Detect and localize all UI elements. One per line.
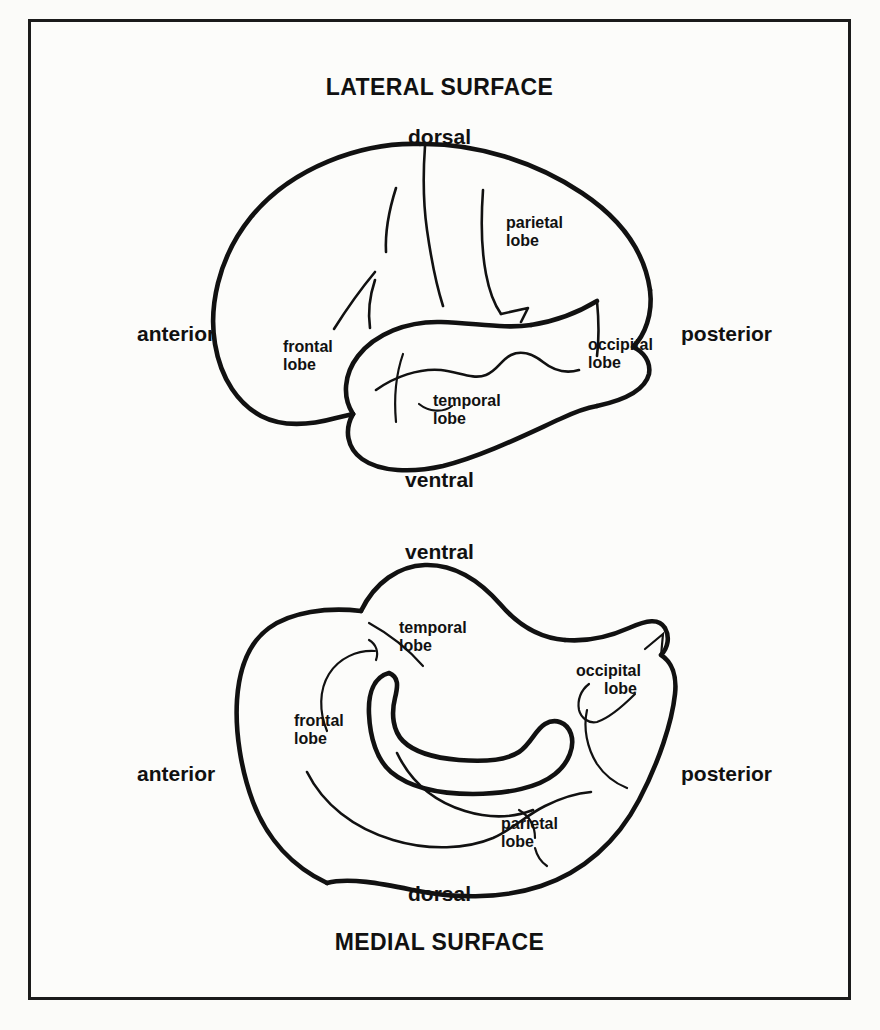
medial-frontal-lobe-line2: lobe: [294, 730, 344, 748]
medial-surface-title: MEDIAL SURFACE: [31, 929, 848, 956]
medial-parietal-lobe-line1: parietal: [501, 815, 558, 833]
medial-parietal-lobe-line2: lobe: [501, 833, 558, 851]
medial-dorsal-label: dorsal: [31, 882, 848, 906]
medial-parietal-lobe-label: parietal lobe: [501, 815, 558, 851]
medial-temporal-lobe-line2: lobe: [399, 637, 467, 655]
page-canvas: LATERAL SURFACE dorsal anterior posterio…: [0, 0, 880, 1030]
medial-brain-illustration: [31, 22, 854, 1003]
medial-occipital-lobe-line1: occipital: [576, 662, 641, 680]
medial-occipital-notch: [645, 634, 663, 656]
medial-temporal-lobe-line1: temporal: [399, 619, 467, 637]
medial-occipital-lobe-label: occipital lobe: [576, 662, 641, 698]
figure-frame: LATERAL SURFACE dorsal anterior posterio…: [28, 19, 851, 1000]
medial-frontal-lobe-label: frontal lobe: [294, 712, 344, 748]
medial-frontal-lobe-line1: frontal: [294, 712, 344, 730]
medial-corpus-callosum: [369, 673, 572, 794]
medial-temporal-lobe-label: temporal lobe: [399, 619, 467, 655]
medial-occipital-lobe-line2: lobe: [604, 680, 641, 698]
